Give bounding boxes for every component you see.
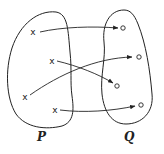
arrow-p2-q3 (57, 61, 113, 83)
element-p4-cross: x (52, 105, 58, 115)
arrow-p1-q1 (40, 27, 118, 32)
element-q2-circle (137, 55, 141, 59)
element-q1-circle (121, 26, 125, 30)
element-q4-circle (139, 103, 143, 107)
element-p3-cross: x (22, 92, 28, 102)
set-p-label: P (37, 130, 46, 144)
arrow-p3-q2 (30, 57, 132, 95)
element-q3-circle (115, 84, 119, 88)
element-p1-cross: x (30, 27, 36, 37)
arrow-p4-q4 (60, 106, 135, 111)
mapping-diagram: x x x x (0, 0, 164, 154)
element-p2-cross: x (49, 56, 55, 66)
set-q-label: Q (124, 130, 134, 144)
